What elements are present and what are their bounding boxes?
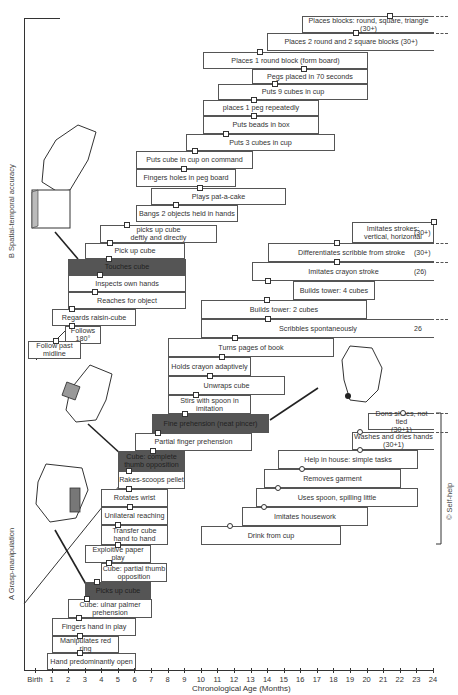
square-marker-icon bbox=[94, 579, 100, 585]
axis-tick bbox=[201, 668, 202, 673]
axis-tick bbox=[151, 668, 152, 673]
square-marker-icon bbox=[69, 323, 75, 329]
square-marker-icon bbox=[53, 338, 59, 344]
square-marker-icon bbox=[115, 522, 121, 528]
hand-pincer-icon bbox=[330, 340, 390, 410]
milestone-box: picks up cube deftly and directly bbox=[100, 225, 217, 243]
square-marker-icon bbox=[107, 240, 113, 246]
axis-tick-label: 3 bbox=[83, 675, 87, 684]
square-marker-icon bbox=[150, 448, 156, 454]
milestone-box: Plays pat-a-cake bbox=[151, 188, 286, 205]
square-marker-icon bbox=[207, 373, 213, 379]
square-marker-icon bbox=[334, 259, 340, 265]
hand-with-cube-icon bbox=[28, 120, 100, 230]
milestone-box: Fine prehension (neat pincer) bbox=[152, 414, 269, 433]
square-marker-icon bbox=[223, 131, 229, 137]
continuation-dash bbox=[436, 262, 448, 263]
axis-tick-label: 14 bbox=[263, 675, 271, 684]
square-marker-icon bbox=[257, 49, 263, 55]
circle-marker-icon bbox=[357, 447, 363, 453]
square-marker-icon bbox=[182, 411, 188, 417]
axis-tick-label: 7 bbox=[149, 675, 153, 684]
square-marker-icon bbox=[92, 289, 98, 295]
square-marker-icon bbox=[77, 633, 83, 639]
axis-tick bbox=[317, 668, 318, 673]
axis-tick-label: 1 bbox=[49, 675, 53, 684]
age-note: (30+) bbox=[414, 229, 431, 236]
milestone-box: Pick up cube bbox=[85, 243, 185, 259]
axis-tick-label: 11 bbox=[213, 675, 221, 684]
axis-tick bbox=[217, 668, 218, 673]
milestone-box: Bangs 2 objects held in hands bbox=[136, 205, 238, 222]
milestone-box: Builds tower: 4 cubes bbox=[293, 281, 375, 300]
square-marker-icon bbox=[232, 335, 238, 341]
milestone-box: Fingers hand in play bbox=[52, 618, 136, 636]
age-note: 26 bbox=[414, 325, 422, 332]
axis-tick bbox=[383, 668, 384, 673]
milestone-chart: B Spatial-temporal accuracy A Grasp-mani… bbox=[0, 0, 458, 695]
axis-tick bbox=[433, 668, 434, 673]
square-marker-icon bbox=[431, 219, 437, 225]
circle-marker-icon bbox=[275, 485, 281, 491]
milestone-box: Rotates wrist bbox=[101, 489, 168, 507]
square-marker-icon bbox=[387, 13, 393, 19]
square-marker-icon bbox=[192, 148, 198, 154]
axis-tick-label: 2 bbox=[66, 675, 70, 684]
square-marker-icon bbox=[251, 113, 257, 119]
milestone-box: places 1 peg repeatedly bbox=[203, 100, 319, 116]
milestone-box: Differentiates scribble from stroke bbox=[268, 243, 434, 262]
axis-tick bbox=[367, 668, 368, 673]
milestone-box: Removes garment bbox=[264, 469, 401, 488]
continuation-dash bbox=[436, 16, 448, 17]
square-marker-icon bbox=[106, 560, 112, 566]
axis-tick-label: 9 bbox=[182, 675, 186, 684]
hand-grasping-cube-icon bbox=[60, 360, 120, 430]
milestone-box: Unilateral reaching bbox=[101, 507, 168, 525]
square-marker-icon bbox=[301, 66, 307, 72]
age-note: (26) bbox=[414, 268, 426, 275]
axis-tick bbox=[400, 668, 401, 673]
milestone-box: Manipulates red ring bbox=[52, 636, 119, 653]
square-marker-icon bbox=[353, 30, 359, 36]
square-marker-icon bbox=[115, 542, 121, 548]
milestone-box: Places 1 round block (form board) bbox=[203, 52, 368, 69]
axis-tick-label: 17 bbox=[313, 675, 321, 684]
axis-tick bbox=[85, 668, 86, 673]
section-a-label: A Grasp-manipulation bbox=[7, 528, 16, 600]
axis-tick-label: 12 bbox=[230, 675, 238, 684]
axis-tick bbox=[251, 668, 252, 673]
axis-tick-label: 13 bbox=[246, 675, 254, 684]
square-marker-icon bbox=[265, 278, 271, 284]
milestone-box: Washes and dries hands (30+1) bbox=[352, 432, 434, 450]
section-c-label: © Self-help bbox=[445, 483, 454, 520]
continuation-dash bbox=[436, 432, 448, 433]
square-marker-icon bbox=[197, 185, 203, 191]
circle-marker-icon bbox=[227, 523, 233, 529]
circle-marker-icon bbox=[400, 410, 406, 416]
square-marker-icon bbox=[173, 202, 179, 208]
square-marker-icon bbox=[334, 240, 340, 246]
axis-tick bbox=[300, 668, 301, 673]
axis-tick bbox=[134, 668, 135, 673]
square-marker-icon bbox=[97, 272, 103, 278]
square-marker-icon bbox=[265, 316, 271, 322]
axis-tick bbox=[118, 668, 119, 673]
axis-tick bbox=[234, 668, 235, 673]
square-marker-icon bbox=[155, 430, 161, 436]
milestone-box: Drink from cup bbox=[201, 526, 341, 545]
milestone-box: Imitates crayon stroke bbox=[252, 262, 434, 281]
square-marker-icon bbox=[219, 354, 225, 360]
milestone-box: Puts 9 cubes in cup bbox=[218, 84, 368, 100]
square-marker-icon bbox=[251, 97, 257, 103]
milestone-box: Imitates housework bbox=[242, 507, 368, 526]
axis-tick bbox=[35, 668, 36, 673]
continuation-dash bbox=[436, 319, 448, 320]
milestone-box: Puts beads in box bbox=[203, 116, 319, 134]
square-marker-icon bbox=[106, 256, 112, 262]
continuation-dash bbox=[436, 413, 448, 414]
milestone-box: Stirs with spoon in imitation bbox=[168, 395, 251, 414]
square-marker-icon bbox=[77, 650, 83, 656]
axis-tick-label: 22 bbox=[396, 675, 404, 684]
milestone-box: Unwraps cube bbox=[168, 376, 285, 395]
axis-tick-label: 10 bbox=[197, 675, 205, 684]
